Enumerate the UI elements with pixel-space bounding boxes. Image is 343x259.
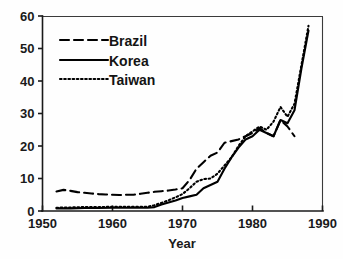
x-tick-label: 1970 <box>168 216 197 231</box>
y-tick-label: 50 <box>20 41 34 56</box>
legend-label-taiwan: Taiwan <box>109 72 155 88</box>
y-tick-label: 30 <box>20 106 34 121</box>
chart-figure-page: 0102030405060 19501960197019801990 Brazi… <box>0 0 343 259</box>
y-tick-label: 10 <box>20 171 34 186</box>
x-tick-label: 1960 <box>98 216 127 231</box>
legend-label-brazil: Brazil <box>109 33 147 49</box>
x-tick-label: 1990 <box>308 216 337 231</box>
x-tick-label: 1980 <box>238 216 267 231</box>
x-tick-label: 1950 <box>28 216 57 231</box>
y-tick-label: 60 <box>20 9 34 24</box>
line-chart: 0102030405060 19501960197019801990 Brazi… <box>0 0 343 259</box>
legend: Brazil Korea Taiwan <box>60 33 155 88</box>
legend-label-korea: Korea <box>109 53 149 69</box>
y-tick-label: 20 <box>20 139 34 154</box>
x-axis-title: Year <box>168 236 195 251</box>
y-tick-label: 40 <box>20 74 34 89</box>
